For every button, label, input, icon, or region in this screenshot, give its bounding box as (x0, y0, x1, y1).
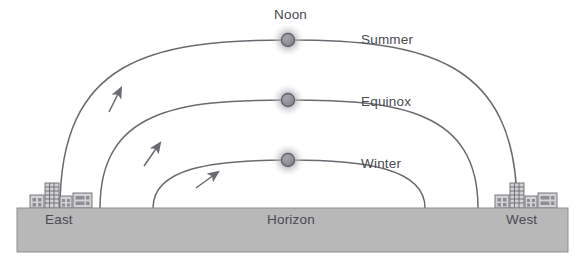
arc-summer (60, 40, 517, 208)
sun-path-arcs (60, 40, 517, 208)
sun-winter (271, 143, 305, 177)
arrow-winter-direction (196, 172, 218, 188)
label-summer: Summer (361, 33, 413, 47)
label-winter: Winter (361, 157, 401, 171)
sun-equinox (271, 83, 305, 117)
city-skyline-west-icon (495, 183, 557, 208)
arrow-summer-direction (109, 88, 121, 112)
sun-path-diagram: Noon Summer Equinox Winter East Horizon … (0, 0, 584, 268)
label-noon: Noon (274, 8, 307, 22)
sun-motion-arrows (109, 88, 218, 188)
arrow-equinox-direction (144, 143, 160, 166)
label-east: East (45, 213, 73, 227)
sun-summer (271, 23, 305, 57)
label-west: West (506, 213, 537, 227)
label-horizon: Horizon (267, 213, 315, 227)
sun-winter-disc (281, 153, 294, 166)
diagram-canvas (0, 0, 584, 268)
sun-summer-disc (281, 33, 294, 46)
label-equinox: Equinox (361, 95, 411, 109)
sun-equinox-disc (281, 93, 294, 106)
